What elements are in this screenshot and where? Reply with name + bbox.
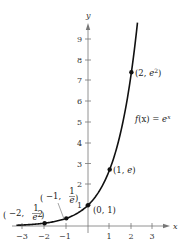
annotations: ( −2, 1 e 2 ) ( −1, 1 e ) (0, 1) (1, e) … bbox=[3, 67, 171, 222]
x-tick-label: 2 bbox=[128, 232, 133, 241]
y-tick-labels: 1 2 3 4 5 6 7 8 9 bbox=[77, 35, 82, 210]
function-label: f(x) = ex bbox=[134, 113, 171, 125]
svg-text:e: e bbox=[69, 195, 74, 205]
data-point bbox=[42, 221, 46, 225]
label-point-neg1: ( −1, 1 e ) bbox=[40, 186, 78, 205]
svg-text:): ) bbox=[41, 210, 44, 220]
label-point-1: (1, e) bbox=[113, 165, 136, 175]
data-point bbox=[129, 70, 133, 74]
label-point-2: (2, e2) bbox=[135, 67, 161, 79]
y-tick-label: 5 bbox=[77, 118, 82, 127]
svg-text:−2,: −2, bbox=[9, 208, 24, 218]
label-point-neg2: ( −2, 1 e 2 ) bbox=[3, 203, 44, 222]
exponential-chart: x y −3 −2 −1 1 2 3 1 2 3 4 5 6 7 bbox=[0, 0, 188, 249]
x-tick-label: −1 bbox=[59, 232, 71, 241]
svg-text:): ) bbox=[75, 193, 78, 203]
y-tick-label: 6 bbox=[77, 97, 82, 106]
y-tick-label: 9 bbox=[77, 35, 82, 44]
x-tick-labels: −3 −2 −1 1 2 3 bbox=[16, 232, 154, 241]
y-tick-label: 7 bbox=[77, 76, 82, 85]
x-axis-label: x bbox=[173, 222, 178, 231]
svg-text:(: ( bbox=[40, 193, 43, 203]
y-axis-arrow-icon bbox=[86, 23, 90, 30]
y-tick-label: 4 bbox=[77, 139, 82, 148]
label-point-0: (0, 1) bbox=[93, 205, 116, 215]
leader-line bbox=[58, 203, 64, 219]
x-tick-label: 1 bbox=[106, 232, 111, 241]
data-point bbox=[64, 216, 68, 220]
x-tick-label: −2 bbox=[38, 232, 50, 241]
y-axis-label: y bbox=[85, 11, 91, 20]
x-axis-arrow-icon bbox=[163, 224, 170, 228]
data-point bbox=[86, 203, 90, 207]
y-tick-label: 2 bbox=[77, 180, 82, 189]
x-tick-label: −3 bbox=[16, 232, 28, 241]
x-tick-label: 3 bbox=[149, 232, 154, 241]
svg-text:(: ( bbox=[3, 210, 6, 220]
y-tick-label: 8 bbox=[77, 56, 82, 65]
y-tick-label: 3 bbox=[77, 160, 82, 169]
svg-text:−1,: −1, bbox=[46, 191, 61, 201]
data-point bbox=[108, 167, 112, 171]
